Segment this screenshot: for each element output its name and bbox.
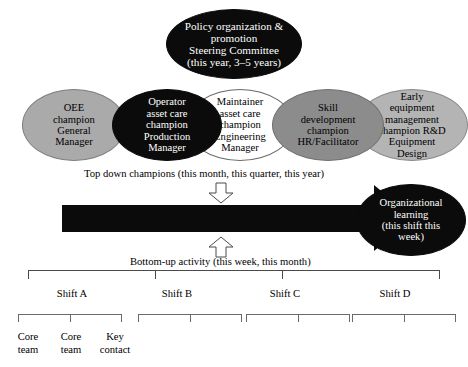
skill-development-champion-ellipse: Skill development champion HR/Facilitato… — [272, 89, 384, 161]
down-arrow-icon — [207, 182, 235, 204]
shifts-bracket-tick — [155, 270, 156, 279]
steering-committee-label: Policy organization & promotion Steering… — [181, 20, 288, 68]
early-equipment-management-champion-label: Early equipment management champion R&D … — [374, 91, 449, 160]
skill-development-champion-label: Skill development champion HR/Facilitato… — [293, 102, 362, 148]
steering-committee-ellipse: Policy organization & promotion Steering… — [166, 9, 302, 79]
organizational-learning-label: Organizational learning (this shift this… — [376, 197, 447, 243]
operator-asset-care-champion-label: Operator asset care champion Production … — [140, 96, 195, 153]
shift-d-members-tick — [404, 314, 405, 322]
shift-b-members-tick — [190, 314, 191, 322]
shift-a-members-tick — [70, 314, 71, 322]
up-arrow-icon — [207, 236, 235, 258]
operator-asset-care-champion-ellipse: Operator asset care champion Production … — [112, 89, 222, 161]
shift-label-d: Shift D — [350, 288, 440, 299]
organizational-learning-arrow-shaft — [62, 205, 392, 232]
shifts-bracket-tick — [282, 270, 283, 279]
shift-label-a: Shift A — [27, 288, 117, 299]
oee-champion-label: OEE champion General Manager — [49, 102, 99, 148]
shift-a-member-key-contact: Key contact — [87, 330, 143, 356]
shift-c-members-tick — [298, 314, 299, 322]
oee-champion-ellipse: OEE champion General Manager — [22, 89, 126, 161]
diagram-canvas: Policy organization & promotion Steering… — [0, 0, 468, 367]
organizational-learning-ellipse: Organizational learning (this shift this… — [356, 184, 466, 256]
shifts-bracket — [28, 270, 440, 279]
shift-label-c: Shift C — [240, 288, 330, 299]
top-down-champions-caption: Top down champions (this month, this qua… — [84, 168, 324, 179]
shift-label-b: Shift B — [132, 288, 222, 299]
